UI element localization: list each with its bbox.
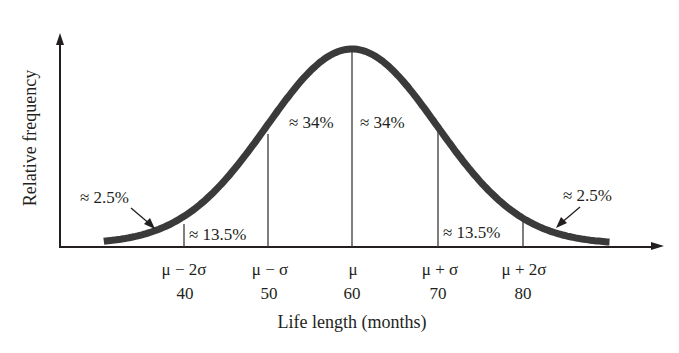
region-label-70-80: ≈ 13.5% [443,224,501,241]
tick-symbol-80: μ + 2σ [502,261,547,278]
tick-value-40: 40 [177,285,194,302]
tick-value-60: 60 [344,285,361,302]
tick-value-70: 70 [430,285,447,302]
tick-value-80: 80 [515,285,532,302]
normal-curve [104,49,610,242]
region-label-right-tail: ≈ 2.5% [563,187,612,204]
chart-canvas [0,0,679,353]
tick-symbol-50: μ − σ [252,261,288,278]
region-label-50-60: ≈ 34% [289,114,334,131]
y-axis-arrow-icon [56,33,64,45]
x-axis-label: Life length (months) [278,312,427,333]
tick-symbol-60: μ [348,261,357,278]
tick-value-50: 50 [261,285,278,302]
tick-symbol-40: μ − 2σ [162,261,207,278]
region-label-40-50: ≈ 13.5% [189,226,247,243]
x-axis-arrow-icon [651,242,664,250]
region-label-left-tail: ≈ 2.5% [80,189,129,206]
y-axis-label: Relative frequency [20,70,41,206]
region-label-60-70: ≈ 34% [360,114,405,131]
tick-symbol-70: μ + σ [422,261,458,278]
